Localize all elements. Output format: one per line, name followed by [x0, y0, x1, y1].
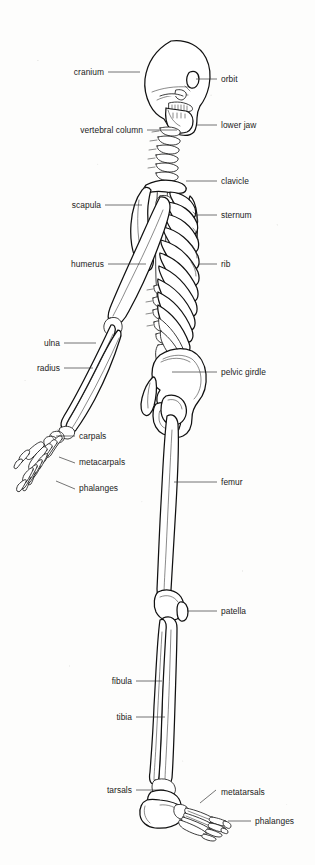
orbit-socket: [187, 71, 199, 88]
cervical-vertebrae: [148, 127, 180, 181]
label-vertebral-column: vertebral column: [80, 125, 143, 135]
label-carpals: carpals: [79, 431, 106, 441]
label-ulna: ulna: [44, 338, 60, 348]
label-metatarsals: metatarsals: [221, 787, 265, 797]
label-fibula: fibula: [112, 676, 133, 686]
label-scapula: scapula: [72, 200, 102, 210]
label-tibia: tibia: [116, 712, 132, 722]
foot-group: [140, 790, 231, 841]
label-sternum: sternum: [221, 210, 252, 220]
label-femur: femur: [221, 477, 243, 487]
label-orbit: orbit: [221, 74, 238, 84]
leg-group: [150, 415, 188, 798]
patella: [177, 602, 188, 621]
label-rib: rib: [221, 259, 231, 269]
label-metacarpals: metacarpals: [79, 457, 125, 467]
leader-line-phalanges-hand: [56, 481, 75, 489]
label-radius: radius: [37, 363, 60, 373]
label-tarsals: tarsals: [107, 785, 132, 795]
label-pelvic-girdle: pelvic girdle: [221, 367, 266, 377]
radius: [66, 330, 121, 433]
skeleton-illustration: craniumorbitvertebral columnlower jawcla…: [0, 0, 315, 865]
label-lower-jaw: lower jaw: [221, 120, 257, 130]
label-phalanges-foot: phalanges: [255, 816, 294, 826]
label-phalanges-hand: phalanges: [79, 483, 118, 493]
ulna: [61, 325, 115, 430]
label-humerus: humerus: [71, 259, 104, 269]
skeleton-diagram: craniumorbitvertebral columnlower jawcla…: [0, 0, 315, 865]
leader-line-metacarpals: [59, 457, 75, 463]
skull-group: [145, 41, 210, 136]
label-patella: patella: [221, 606, 246, 616]
leader-line-metatarsals: [200, 790, 216, 803]
label-clavicle: clavicle: [221, 176, 249, 186]
femur: [157, 415, 178, 603]
arm-group: [14, 197, 170, 492]
label-cranium: cranium: [74, 67, 104, 77]
